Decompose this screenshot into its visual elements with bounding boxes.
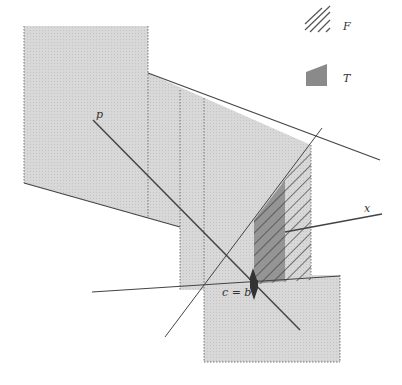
label-cb: c = b xyxy=(222,286,251,299)
legend-item-f: F xyxy=(305,6,351,33)
label-p: p xyxy=(96,108,103,121)
svg-text:T: T xyxy=(343,72,352,85)
legend: F T xyxy=(305,6,352,86)
label-x: x xyxy=(364,202,371,215)
diagram: p x c = b F T xyxy=(0,0,402,385)
legend-item-t: T xyxy=(306,64,352,86)
svg-text:F: F xyxy=(342,20,351,33)
